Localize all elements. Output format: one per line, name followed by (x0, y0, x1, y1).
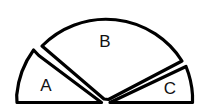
sector-diagram-canvas: A B C (0, 0, 207, 108)
sector-a-label: A (40, 76, 52, 95)
sector-diagram-figure: A B C (0, 0, 207, 108)
sector-c-label: C (164, 79, 176, 98)
sector-b-label: B (99, 32, 110, 51)
